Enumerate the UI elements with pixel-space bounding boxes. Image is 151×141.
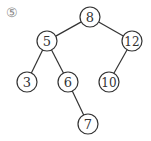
tree-node-10: 10 — [99, 72, 119, 92]
svg-text:3: 3 — [23, 75, 31, 90]
tree-node-8: 8 — [80, 7, 100, 27]
tree-edge — [56, 22, 82, 36]
tree-node-3: 3 — [17, 72, 37, 92]
tree-edge — [52, 50, 64, 73]
tree-node-6: 6 — [58, 72, 78, 92]
tree-node-5: 5 — [37, 31, 57, 51]
tree-node-12: 12 — [122, 31, 142, 51]
tree-nodes: 851236107 — [17, 7, 142, 134]
svg-text:8: 8 — [86, 10, 94, 25]
svg-text:5: 5 — [43, 34, 51, 49]
svg-text:6: 6 — [64, 75, 72, 90]
tree-node-7: 7 — [78, 114, 98, 134]
tree-edge — [99, 22, 124, 36]
svg-text:12: 12 — [124, 35, 139, 49]
svg-text:10: 10 — [101, 76, 116, 90]
svg-text:7: 7 — [84, 117, 92, 132]
tree-edge — [31, 50, 42, 73]
tree-edge — [114, 50, 127, 74]
binary-tree: 851236107 — [0, 0, 151, 141]
tree-edge — [72, 91, 83, 115]
